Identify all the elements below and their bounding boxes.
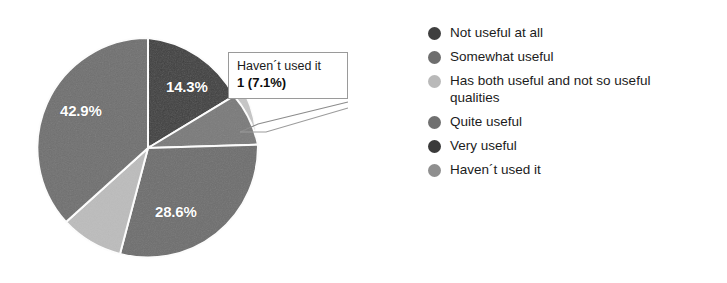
legend-swatch-icon <box>428 164 441 177</box>
legend-item-label: Very useful <box>450 137 517 155</box>
slice-percent-label-quite-useful: 42.9% <box>60 102 102 119</box>
legend-swatch-icon <box>428 27 441 40</box>
slice-percent-label-somewhat-useful: 28.6% <box>155 203 197 220</box>
legend-swatch-icon <box>428 140 441 153</box>
legend-item-somewhat-useful[interactable]: Somewhat useful <box>428 48 718 66</box>
legend-swatch-icon <box>428 116 441 129</box>
slice-percent-label-not-useful-at-all: 14.3% <box>166 78 208 95</box>
data-callout-box[interactable]: Haven´t used it 1 (7.1%) <box>228 52 348 99</box>
legend-item-has-both-useful-and-not-so-useful-qualities[interactable]: Has both useful and not so useful qualit… <box>428 72 718 108</box>
pie-chart-figure: 14.3% 42.9% 28.6% Haven´t used it 1 (7.1… <box>0 0 727 283</box>
legend-item-very-useful[interactable]: Very useful <box>428 137 718 155</box>
pie-chart-plot-area: 14.3% 42.9% 28.6% Haven´t used it 1 (7.1… <box>0 0 400 283</box>
legend-swatch-icon <box>428 51 441 64</box>
legend-item-label: Haven´t used it <box>450 161 541 179</box>
legend-item-label: Not useful at all <box>450 24 543 42</box>
pie-chart-svg <box>0 0 400 283</box>
chart-legend: Not useful at all Somewhat useful Has bo… <box>428 24 718 185</box>
legend-item-quite-useful[interactable]: Quite useful <box>428 113 718 131</box>
legend-item-havent-used-it[interactable]: Haven´t used it <box>428 161 718 179</box>
legend-item-label: Quite useful <box>450 113 522 131</box>
callout-title: Haven´t used it <box>237 58 340 74</box>
legend-item-label: Has both useful and not so useful qualit… <box>450 72 695 108</box>
legend-item-label: Somewhat useful <box>450 48 554 66</box>
callout-value: 1 (7.1%) <box>237 75 340 92</box>
legend-item-not-useful-at-all[interactable]: Not useful at all <box>428 24 718 42</box>
legend-swatch-icon <box>428 75 441 88</box>
